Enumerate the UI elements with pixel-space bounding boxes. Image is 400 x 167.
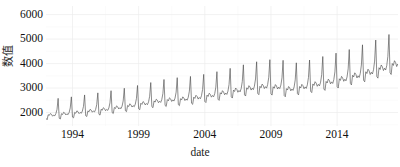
x-tick-label: 2004 — [180, 129, 230, 141]
y-tick-label: 3000 — [0, 82, 43, 94]
x-tick-label: 2014 — [312, 129, 362, 141]
plot-panel — [46, 6, 398, 126]
y-tick-label: 6000 — [0, 9, 43, 21]
y-tick-label: 2000 — [0, 107, 43, 119]
y-tick-label: 5000 — [0, 33, 43, 45]
chart-figure: 数值 20003000400050006000 1994199920042009… — [0, 0, 400, 167]
x-axis-title: date — [0, 147, 400, 159]
x-axis-tick-labels: 19941999200420092014 — [0, 129, 400, 143]
x-tick-label: 1999 — [114, 129, 164, 141]
plot-area — [46, 6, 398, 126]
x-tick-label: 1994 — [48, 129, 98, 141]
x-tick-label: 2009 — [246, 129, 296, 141]
y-tick-label: 4000 — [0, 58, 43, 70]
